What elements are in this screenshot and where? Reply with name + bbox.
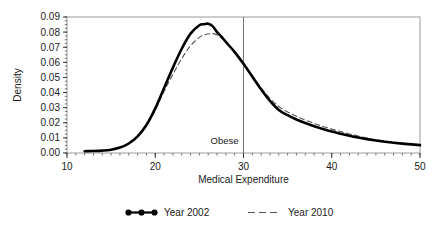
legend-marker-dot-3	[151, 209, 157, 215]
x-tick-label: 10	[61, 161, 73, 172]
y-tick-label: 0.06	[41, 57, 61, 68]
density-chart-figure: 0.000.010.020.030.040.050.060.070.080.09…	[0, 0, 444, 229]
x-axis-title: Medical Expenditure	[198, 174, 289, 185]
y-axis-tick-labels: 0.000.010.020.030.040.050.060.070.080.09	[41, 11, 61, 158]
y-tick-label: 0.01	[41, 132, 61, 143]
y-tick-label: 0.07	[41, 42, 61, 53]
y-axis-title: Density	[12, 68, 23, 101]
legend-label-year-2010: Year 2010	[288, 207, 334, 218]
y-tick-label: 0.02	[41, 117, 61, 128]
x-tick-label: 50	[414, 161, 426, 172]
y-tick-label: 0.09	[41, 11, 61, 22]
y-tick-label: 0.00	[41, 147, 61, 158]
legend-marker-dot-1	[125, 209, 131, 215]
legend-item-year-2002: Year 2002	[125, 207, 209, 218]
y-tick-label: 0.03	[41, 102, 61, 113]
obese-threshold-label: Obese	[211, 135, 239, 146]
legend-marker-dot-2	[138, 209, 144, 215]
y-tick-label: 0.04	[41, 87, 61, 98]
chart-legend: Year 2002 Year 2010	[125, 207, 333, 218]
y-tick-label: 0.05	[41, 72, 61, 83]
legend-label-year-2002: Year 2002	[164, 207, 210, 218]
x-tick-label: 30	[238, 161, 250, 172]
y-tick-label: 0.08	[41, 27, 61, 38]
chart-canvas: 0.000.010.020.030.040.050.060.070.080.09…	[0, 0, 444, 229]
series-line-year-2010	[85, 34, 420, 152]
x-tick-label: 40	[326, 161, 338, 172]
x-axis-tick-labels: 1020304050	[61, 161, 426, 172]
series-line-year-2002	[85, 24, 420, 152]
legend-item-year-2010: Year 2010	[248, 207, 334, 218]
annotation-layer: Obese	[211, 17, 244, 153]
series-layer	[85, 24, 420, 152]
x-tick-label: 20	[150, 161, 162, 172]
